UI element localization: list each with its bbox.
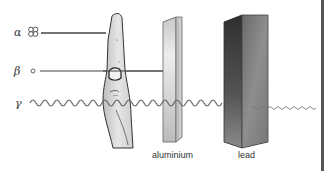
radiation-penetration-diagram: α β γ [0, 0, 325, 171]
lead-label: lead [238, 150, 255, 160]
aluminium-label: aluminium [152, 150, 193, 160]
beta-label: β [13, 65, 20, 78]
page-edge-divider [321, 0, 324, 171]
beta-symbol: β [13, 65, 20, 78]
aluminium-barrier [163, 17, 182, 142]
alpha-symbol: α [14, 26, 22, 39]
hand-barrier [103, 14, 133, 148]
gamma-symbol: γ [15, 97, 22, 110]
alpha-particle-icon [29, 27, 38, 36]
lead-barrier [224, 15, 268, 148]
gamma-label: γ [15, 97, 22, 110]
alpha-label: α [14, 26, 22, 39]
beta-particle-icon [31, 69, 35, 73]
